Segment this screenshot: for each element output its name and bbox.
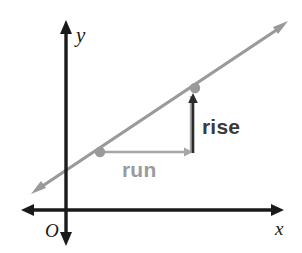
x-axis-arrowhead-right [271,204,284,216]
rise-arrowhead [188,93,198,103]
slope-line [38,27,281,189]
slope-line-group [31,21,288,194]
run-label: run [122,158,156,181]
origin-label: O [45,220,59,241]
y-axis-group [60,20,72,246]
slope-point-upper [190,83,200,93]
rise-label: rise [202,115,240,138]
y-axis-arrowhead-top [60,20,72,34]
slope-diagram-canvas: y x O rise run [0,0,302,253]
x-axis-arrowhead-left [21,204,34,216]
y-axis-arrowhead-bottom [60,232,72,246]
x-axis-label: x [274,218,284,239]
slope-line-arrowhead-lower-left [31,181,46,194]
slope-point-lower [95,147,105,157]
x-axis-group [21,204,284,216]
y-axis-label: y [74,23,86,47]
run-arrow-group [100,96,193,157]
slope-diagram-figure: y x O rise run [0,0,302,253]
rise-arrow-group [188,93,198,153]
